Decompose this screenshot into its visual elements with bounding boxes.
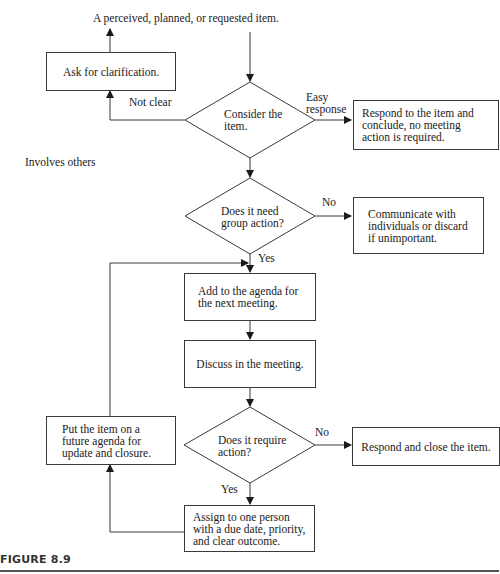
label-easy-response-2: response (306, 103, 346, 115)
box-respond-conclude: Respond to the item and conclude, no mee… (353, 100, 499, 150)
caption-rule (0, 570, 499, 572)
box-future-agenda-text: Put the item on a future agenda for upda… (62, 423, 160, 459)
box-discuss-text: Discuss in the meeting. (196, 358, 303, 370)
box-future-agenda: Put the item on a future agenda for upda… (46, 416, 176, 465)
box-add-agenda: Add to the agenda for the next meeting. (184, 273, 316, 321)
label-not-clear: Not clear (129, 96, 171, 108)
decision-require-action-line-1: Does it require (218, 434, 303, 446)
box-communicate: Communicate with individuals or discard … (353, 197, 484, 254)
figure-caption: FIGURE 8.9 (0, 553, 71, 566)
box-discuss: Discuss in the meeting. (184, 340, 316, 388)
arrow-assign-to-future (110, 465, 184, 532)
box-respond-close: Respond and close the item. (352, 427, 500, 466)
label-no-action: No (315, 426, 329, 438)
start-label: A perceived, planned, or requested item. (93, 12, 279, 24)
decision-group-action-line-1: Does it need (221, 205, 301, 217)
box-ask-clarification: Ask for clarification. (46, 52, 176, 91)
box-assign: Assign to one person with a due date, pr… (184, 505, 315, 552)
decision-group-action: Does it need group action? (221, 205, 301, 229)
decision-require-action-line-2: action? (218, 446, 303, 458)
box-respond-close-text: Respond and close the item. (361, 441, 490, 453)
box-respond-conclude-text: Respond to the item and conclude, no mee… (362, 107, 490, 143)
label-no-group: No (322, 196, 336, 208)
box-add-agenda-text: Add to the agenda for the next meeting. (198, 285, 302, 309)
decision-consider-line-2: item. (224, 120, 294, 132)
label-yes-action: Yes (221, 483, 238, 495)
label-easy-response-1: Easy (306, 91, 328, 103)
decision-consider: Consider the item. (224, 108, 294, 132)
box-ask-clarification-text: Ask for clarification. (63, 66, 159, 78)
box-assign-text: Assign to one person with a due date, pr… (193, 511, 306, 547)
decision-group-action-line-2: group action? (221, 217, 301, 229)
box-communicate-text: Communicate with individuals or discard … (368, 208, 469, 244)
label-involves-others: Involves others (25, 156, 96, 168)
decision-require-action: Does it require action? (218, 434, 303, 458)
label-yes-group: Yes (258, 252, 275, 264)
decision-consider-line-1: Consider the (224, 108, 294, 120)
